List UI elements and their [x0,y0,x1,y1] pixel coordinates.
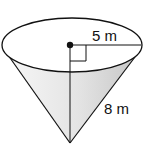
slant-height-label: 8 m [104,101,129,116]
cone-diagram [0,0,148,145]
radius-label: 5 m [92,28,117,43]
center-point [67,42,73,48]
